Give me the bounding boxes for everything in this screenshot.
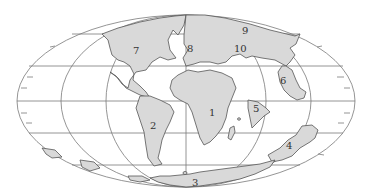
landmass-4 [268,125,318,162]
landmass-eurasia [183,15,300,66]
landmass-madagascar [228,126,235,140]
label-3: 3 [192,177,198,188]
world-map: 1 2 3 4 5 6 7 8 9 10 [0,0,372,194]
landmass-west-fragment [42,148,62,158]
landmass-africa [170,70,236,145]
label-5: 5 [253,103,259,114]
label-4: 4 [286,140,292,151]
small-island [183,172,187,175]
label-2: 2 [150,120,156,131]
landmass-antarctica [150,160,275,187]
label-6: 6 [280,75,286,86]
label-9: 9 [242,25,248,36]
landmass-west-fragment [128,176,150,182]
landmass-south-america [136,96,174,166]
label-10: 10 [234,43,247,54]
small-island [238,118,241,120]
label-7: 7 [133,45,139,56]
label-8: 8 [187,43,193,54]
label-1: 1 [209,107,215,118]
